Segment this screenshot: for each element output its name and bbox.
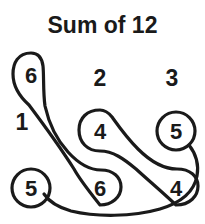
page-title: Sum of 12 — [48, 12, 158, 38]
node-value-n6: 4 — [170, 176, 183, 201]
node-value-n5: 6 — [94, 176, 106, 201]
group-label-3: 3 — [166, 65, 179, 91]
node-value-n2: 4 — [94, 119, 107, 144]
node-value-n4: 5 — [25, 176, 37, 201]
group-label-1: 1 — [16, 109, 29, 135]
node-value-n3: 5 — [170, 119, 182, 144]
node-value-n1: 6 — [25, 63, 37, 88]
sum-of-12-diagram: Sum of 12 1 2 3 6 4 5 5 6 4 — [0, 0, 205, 224]
group-label-2: 2 — [94, 65, 107, 91]
diagram-canvas: Sum of 12 1 2 3 6 4 5 5 6 4 — [0, 0, 205, 224]
